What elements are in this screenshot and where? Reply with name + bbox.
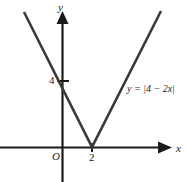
x-axis-label: x <box>176 143 181 154</box>
y-tick-label-4: 4 <box>49 75 55 86</box>
y-axis-label: y <box>58 2 63 13</box>
x-axis <box>0 142 172 154</box>
curve-absolute-value <box>24 11 161 147</box>
origin-label: O <box>52 151 60 162</box>
x-tick-label-2: 2 <box>89 152 95 163</box>
x-axis-arrowhead <box>158 142 172 154</box>
equation-label: y = |4 − 2x| <box>127 84 175 94</box>
graph-figure: y x 4 2 O y = |4 − 2x| <box>0 0 188 182</box>
